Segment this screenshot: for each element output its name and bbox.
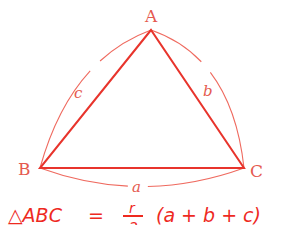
formula-rhs: (a + b + c) [156,204,261,225]
formula-lhs: △ABC [8,204,63,225]
vertex-label-a: A [144,6,158,26]
vertex-label-c: C [250,161,263,181]
formula-numerator: r [129,200,136,216]
triangle-diagram: A B C c b a △ABC = r 2 (a + b + c) [0,0,286,225]
formula-denominator: 2 [129,219,138,225]
handwritten-formula: △ABC = r 2 (a + b + c) [8,200,261,225]
side-label-c: c [74,84,83,102]
triangle-abc [40,30,244,168]
side-label-b: b [203,82,213,100]
side-label-a: a [132,178,141,196]
vertex-label-b: B [18,159,31,179]
arc-side-a [40,168,244,187]
formula-equals: = [88,204,104,225]
